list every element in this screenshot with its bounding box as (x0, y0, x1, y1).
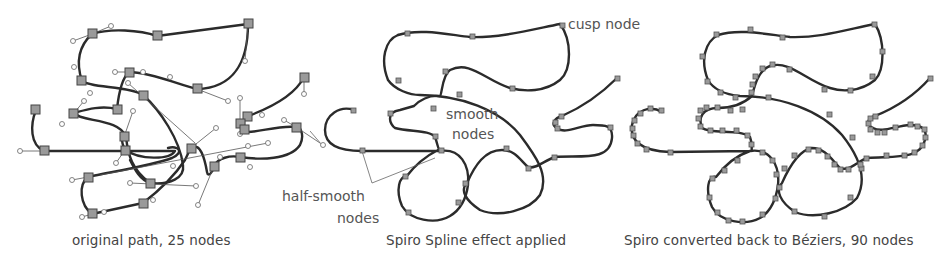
converted-nodes (630, 22, 933, 224)
caption-original-path: original path, 25 nodes (72, 232, 231, 248)
panel-original-path: original path, 25 nodes (0, 0, 320, 274)
caption-converted-beziers: Spiro converted back to Béziers, 90 node… (624, 232, 914, 248)
half-smooth-leaders (310, 131, 435, 183)
panel-converted-beziers: Spiro converted back to Béziers, 90 node… (620, 0, 949, 274)
annotation-smooth-nodes-line2: nodes (452, 124, 494, 144)
path-nodes (31, 19, 309, 218)
caption-spiro-spline: Spiro Spline effect applied (386, 232, 566, 248)
annotation-half-smooth-line1: half-smooth (282, 186, 365, 206)
panel-spiro-spline: cusp node smooth nodes half-smooth nodes… (310, 0, 630, 274)
annotation-smooth-nodes-line1: smooth (446, 104, 498, 124)
bezier-handles (18, 24, 321, 220)
cusp-node (560, 23, 565, 28)
annotation-half-smooth-line2: nodes (337, 208, 379, 228)
